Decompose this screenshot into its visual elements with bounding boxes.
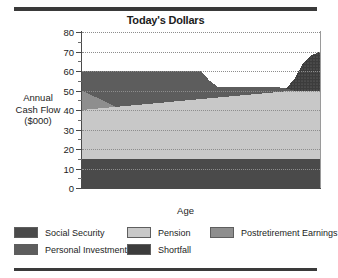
top-rule — [14, 7, 317, 11]
legend-label-postretirement-earnings: Postretirement Earnings — [241, 228, 338, 238]
y-tick — [76, 110, 82, 111]
legend-item-shortfall[interactable]: Shortfall — [127, 243, 191, 256]
legend-label-shortfall: Shortfall — [158, 245, 191, 255]
y-minor-tick — [78, 120, 82, 121]
y-minor-tick — [78, 139, 82, 140]
y-tick — [76, 188, 82, 189]
y-tick-label: 30 — [4, 125, 74, 136]
y-minor-tick — [78, 100, 82, 101]
gridline-70 — [82, 52, 320, 53]
legend-label-personal-investments: Personal Investments — [45, 245, 132, 255]
y-tick-label: 60 — [4, 66, 74, 77]
y-minor-tick — [78, 159, 82, 160]
bottom-rule — [14, 268, 317, 271]
y-minor-tick — [78, 178, 82, 179]
legend-item-personal-investments[interactable]: Personal Investments — [14, 243, 132, 256]
legend-item-postretirement-earnings[interactable]: Postretirement Earnings — [210, 226, 338, 239]
y-tick-label: 20 — [4, 144, 74, 155]
legend-item-pension[interactable]: Pension — [127, 226, 191, 239]
y-tick-label: 70 — [4, 47, 74, 58]
chart-title: Today's Dollars — [0, 14, 331, 26]
y-tick — [76, 71, 82, 72]
gridline-40 — [82, 110, 320, 111]
y-tick — [76, 32, 82, 33]
gridline-20 — [82, 149, 320, 150]
gridline-30 — [82, 130, 320, 131]
x-axis-title: Age — [0, 205, 331, 216]
legend-swatch-shortfall-pattern — [128, 245, 150, 254]
chart-legend: Social Security Pension Postretirement E… — [14, 226, 324, 260]
legend-swatch-social-security — [14, 227, 38, 238]
y-tick-label: 50 — [4, 86, 74, 97]
area-series-social-security — [82, 159, 320, 188]
y-tick — [76, 169, 82, 170]
gridline-60 — [82, 71, 320, 72]
y-minor-tick — [78, 81, 82, 82]
legend-swatch-personal-investments — [14, 244, 38, 255]
plot-right-border — [320, 31, 321, 189]
x-axis-line — [81, 188, 321, 189]
legend-label-social-security: Social Security — [45, 228, 105, 238]
y-tick — [76, 130, 82, 131]
plot-clip — [82, 32, 320, 188]
y-tick-label: 0 — [4, 183, 74, 194]
legend-swatch-shortfall — [127, 244, 151, 255]
legend-label-pension: Pension — [158, 228, 191, 238]
y-tick — [76, 52, 82, 53]
y-minor-tick — [78, 61, 82, 62]
legend-swatch-pension — [127, 227, 151, 238]
y-tick — [76, 149, 82, 150]
plot-area — [82, 32, 320, 188]
gridline-10 — [82, 169, 320, 170]
y-tick-label: 80 — [4, 27, 74, 38]
y-minor-tick — [78, 42, 82, 43]
y-tick-label: 10 — [4, 164, 74, 175]
legend-item-social-security[interactable]: Social Security — [14, 226, 105, 239]
y-tick-label: 40 — [4, 105, 74, 116]
gridline-50 — [82, 91, 320, 92]
legend-swatch-postretirement-earnings — [210, 227, 234, 238]
y-tick — [76, 91, 82, 92]
gridline-80 — [82, 32, 320, 33]
